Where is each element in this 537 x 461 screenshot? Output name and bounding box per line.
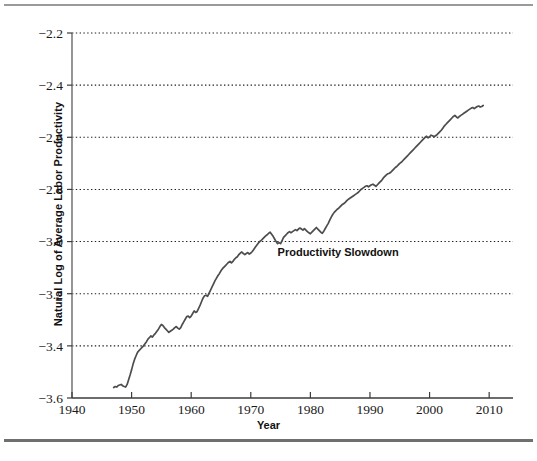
x-axis-title: Year (0, 419, 537, 431)
x-tick-label: 1990 (356, 402, 383, 417)
gridline-group (72, 33, 513, 346)
chart-annotation: Productivity Slowdown (278, 246, 399, 258)
x-tick-label: 1950 (118, 402, 145, 417)
x-tick-label: 1940 (59, 402, 86, 417)
line-chart: −3.6−3.4−3.2−3.0−2.8−2.6−2.4−2.2 1940195… (0, 0, 537, 461)
figure-container: −3.6−3.4−3.2−3.0−2.8−2.6−2.4−2.2 1940195… (0, 0, 537, 461)
x-tick-label: 2010 (476, 402, 503, 417)
x-tick-label: 1970 (237, 402, 264, 417)
x-tick-label: 1980 (297, 402, 324, 417)
x-tick-label-group: 19401950196019701980199020002010 (59, 402, 503, 417)
x-tick-label: 1960 (178, 402, 205, 417)
annotation-group: Productivity Slowdown (278, 246, 399, 258)
x-tick-label: 2000 (416, 402, 443, 417)
axis-group (72, 33, 513, 398)
y-axis-title: Natural Log of Average Labor Productivit… (52, 84, 64, 344)
y-tick-label: −2.2 (39, 26, 64, 41)
x-tick-group (72, 392, 489, 398)
